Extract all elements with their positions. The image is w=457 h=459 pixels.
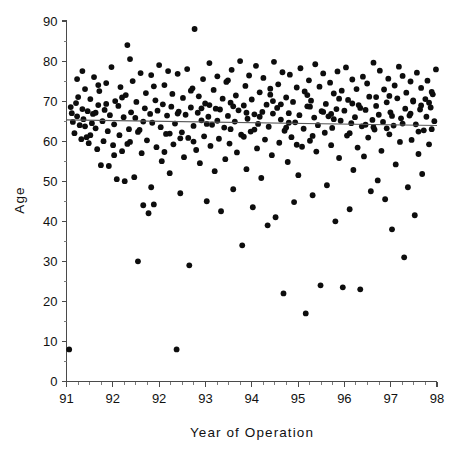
data-point [347, 130, 353, 136]
data-point [246, 73, 252, 79]
data-point [419, 171, 425, 177]
data-point [416, 151, 422, 157]
data-point [384, 125, 390, 131]
data-point [66, 347, 72, 353]
data-point [216, 136, 222, 142]
data-point [357, 105, 363, 111]
data-point [291, 199, 297, 205]
data-point [139, 150, 145, 156]
data-point [301, 126, 307, 132]
data-point [95, 82, 101, 88]
data-point [363, 107, 369, 113]
data-point [234, 149, 240, 155]
data-point [349, 77, 355, 83]
data-point [244, 166, 250, 172]
data-point [188, 105, 194, 111]
data-point [144, 137, 150, 143]
data-point [389, 226, 395, 232]
data-point [410, 97, 416, 103]
data-point [237, 58, 243, 64]
data-point [307, 104, 313, 110]
data-point [179, 129, 185, 135]
data-point [244, 110, 250, 116]
y-tick-label: 90 [43, 14, 57, 29]
data-point [100, 118, 106, 124]
data-point [79, 68, 85, 74]
data-point [195, 110, 201, 116]
data-point [292, 119, 298, 125]
data-point [384, 99, 390, 105]
data-point [143, 90, 149, 96]
data-point [229, 67, 235, 73]
data-point [214, 73, 220, 79]
data-point [175, 71, 181, 77]
data-point [385, 76, 391, 82]
data-point [401, 254, 407, 260]
y-tick-label: 30 [43, 254, 57, 269]
data-point [126, 126, 132, 132]
data-point [281, 290, 287, 296]
data-point [119, 148, 125, 154]
x-tick-label: 95 [291, 391, 305, 406]
data-point [289, 134, 295, 140]
data-point [336, 155, 342, 161]
x-tick-label: 98 [430, 391, 444, 406]
data-point [193, 147, 199, 153]
data-point [295, 172, 301, 178]
x-tick-label: 92 [106, 391, 120, 406]
data-point [286, 110, 292, 116]
data-point [310, 133, 316, 139]
data-point [119, 95, 125, 101]
data-point [400, 73, 406, 79]
data-point [324, 182, 330, 188]
data-point [225, 77, 231, 83]
data-point [241, 134, 247, 140]
data-point [283, 125, 289, 131]
data-point [85, 108, 91, 114]
data-point [252, 111, 258, 117]
data-point [109, 64, 115, 70]
data-point [270, 111, 276, 117]
data-point [110, 142, 116, 148]
y-tick-label: 70 [43, 94, 57, 109]
data-point [245, 116, 251, 122]
data-point [171, 141, 177, 147]
data-point [102, 107, 108, 113]
data-point [310, 192, 316, 198]
x-tick-label: 92 [152, 391, 166, 406]
data-point [111, 152, 117, 158]
data-point [199, 105, 205, 111]
x-tick-label: 91 [59, 391, 73, 406]
data-point [181, 154, 187, 160]
data-point [386, 93, 392, 99]
data-point [386, 131, 392, 137]
data-point [375, 178, 381, 184]
data-point [269, 152, 275, 158]
data-point [118, 84, 124, 90]
data-point [336, 96, 342, 102]
data-point [341, 108, 347, 114]
data-point [115, 103, 121, 109]
data-point [227, 141, 233, 147]
data-point [81, 116, 87, 122]
data-point [368, 188, 374, 194]
data-point [294, 85, 300, 91]
y-tick-label: 50 [43, 174, 57, 189]
data-point [255, 121, 261, 127]
data-point [313, 149, 319, 155]
data-point [151, 202, 157, 208]
data-point [296, 112, 302, 118]
data-point [418, 85, 424, 91]
data-point [403, 90, 409, 96]
data-point [222, 156, 228, 162]
data-point [233, 93, 239, 99]
data-point [87, 132, 93, 138]
data-point [142, 105, 148, 111]
data-point [188, 88, 194, 94]
data-point [273, 214, 279, 220]
data-point [82, 123, 88, 129]
data-point [328, 142, 334, 148]
data-point [91, 74, 97, 80]
data-point [197, 160, 203, 166]
data-point [117, 132, 123, 138]
